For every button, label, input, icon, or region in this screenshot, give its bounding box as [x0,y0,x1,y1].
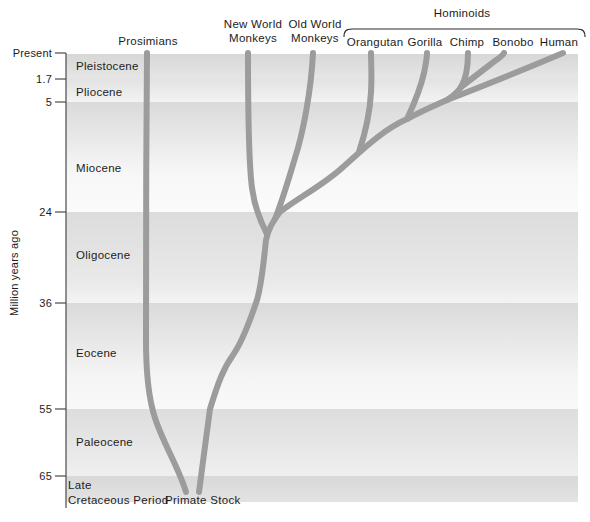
epoch-band-miocene [66,102,578,212]
tick-label-36: 36 [0,297,52,309]
epoch-label-pleistocene: Pleistocene [76,60,139,72]
epoch-band-pliocene [66,79,578,102]
epoch-label-late-cretaceous: Late Cretaceous Period [68,478,168,508]
epoch-band-paleocene [66,409,578,476]
epoch-label-miocene: Miocene [76,162,122,174]
tick-label-55: 55 [0,403,52,415]
new-world-line1: New World [224,17,282,31]
tip-label-orangutan: Orangutan [347,36,404,49]
late-cretaceous-line1: Late [68,478,168,493]
tip-label-old-world-monkeys: Old World Monkeys [288,17,341,45]
primate-phylogeny-figure: Million years ago Present 1.7 5 24 36 55… [0,0,590,522]
tick-label-1-7: 1.7 [0,73,52,85]
epoch-label-paleocene: Paleocene [76,436,133,448]
epoch-band-oligocene [66,212,578,303]
tick-label-65: 65 [0,470,52,482]
epoch-label-oligocene: Oligocene [76,249,130,261]
tip-label-new-world-monkeys: New World Monkeys [224,17,282,45]
late-cretaceous-line2: Cretaceous Period [68,493,168,508]
clade-label-hominoids: Hominoids [434,7,491,20]
new-world-line2: Monkeys [224,31,282,45]
time-axis-ticks [55,53,66,476]
tip-label-prosimians: Prosimians [118,35,177,48]
tip-label-gorilla: Gorilla [408,36,443,49]
epoch-label-eocene: Eocene [76,347,117,359]
epoch-label-pliocene: Pliocene [76,86,123,98]
tick-label-5: 5 [0,96,52,108]
tip-label-human: Human [540,36,578,49]
tick-label-24: 24 [0,206,52,218]
old-world-line1: Old World [288,17,341,31]
epoch-band-eocene [66,303,578,409]
tip-label-chimp: Chimp [450,36,484,49]
tick-label-present: Present [0,47,52,59]
tip-label-bonobo: Bonobo [492,36,533,49]
root-label-primate-stock: Primate Stock [165,494,240,506]
old-world-line2: Monkeys [288,31,341,45]
